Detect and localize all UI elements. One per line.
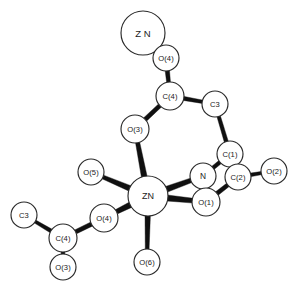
atom-o1[interactable]: O(1) — [192, 188, 220, 216]
atom-o6[interactable]: O(6) — [134, 249, 160, 275]
atom-label-o4-left: O(4) — [96, 214, 112, 223]
atom-label-o4-top: O(4) — [158, 54, 174, 63]
atom-label-c3-lower: C3 — [19, 211, 29, 220]
atom-o5[interactable]: O(5) — [78, 159, 104, 185]
atom-c2[interactable]: C(2) — [225, 164, 251, 190]
atom-label-zn-terminal: Z N — [135, 28, 151, 39]
atom-o3-bottom[interactable]: O(3) — [50, 254, 76, 280]
atom-label-o6: O(6) — [139, 258, 155, 267]
molecular-structure-figure: Z NO(4)C(4)C3O(3)C(1)NC(2)O(2)O(1)O(5)ZN… — [0, 0, 299, 294]
atom-c3-upper[interactable]: C3 — [202, 91, 228, 117]
atom-o4-left[interactable]: O(4) — [90, 204, 118, 232]
atom-label-c4-lower: C(4) — [55, 234, 71, 243]
atom-zn-center[interactable]: ZN — [128, 176, 168, 216]
atom-label-c2: C(2) — [230, 173, 246, 182]
atom-c4-lower[interactable]: C(4) — [49, 224, 77, 252]
atom-c1[interactable]: C(1) — [217, 141, 243, 167]
atom-label-o3-middle: O(3) — [127, 125, 143, 134]
atom-label-o1: O(1) — [198, 198, 214, 207]
atom-label-o5: O(5) — [83, 168, 99, 177]
atom-n[interactable]: N — [190, 163, 216, 189]
atom-c4-upper[interactable]: C(4) — [156, 82, 184, 110]
atom-label-n: N — [200, 171, 206, 181]
structure-canvas: Z NO(4)C(4)C3O(3)C(1)NC(2)O(2)O(1)O(5)ZN… — [0, 0, 299, 294]
atom-label-c1: C(1) — [222, 150, 238, 159]
atom-label-o3-bottom: O(3) — [55, 263, 71, 272]
atom-o4-top[interactable]: O(4) — [153, 45, 179, 71]
atom-o3-middle[interactable]: O(3) — [121, 115, 149, 143]
atom-label-zn-center: ZN — [142, 191, 154, 201]
atom-label-o2: O(2) — [266, 167, 282, 176]
atom-label-c4-upper: C(4) — [162, 92, 178, 101]
atom-c3-lower[interactable]: C3 — [11, 202, 37, 228]
atom-o2[interactable]: O(2) — [261, 158, 287, 184]
atom-label-c3-upper: C3 — [210, 100, 220, 109]
